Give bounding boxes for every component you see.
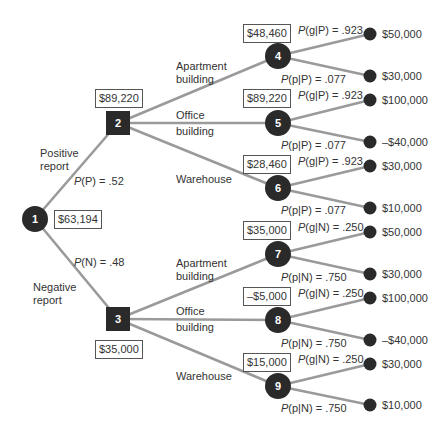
node-label-2: 2 [115, 117, 121, 129]
prob-good-node-7: P(g|N) = .250 [298, 221, 364, 234]
prob-value: .923 [342, 24, 363, 36]
node-label-8: 8 [275, 314, 281, 326]
prob-positive-value: .52 [109, 175, 124, 187]
node-label-1: 1 [32, 213, 38, 225]
ev-box-node-1: $63,194 [54, 210, 102, 229]
prob-poor-node-8: P(p|N) = .750 [281, 337, 347, 350]
prob-value: .750 [325, 271, 346, 283]
prob-value: .750 [325, 337, 346, 349]
payoff-value: $30,000 [382, 268, 422, 281]
ev-box-node-8: –$5,000 [243, 287, 291, 306]
ev-box-node-3: $35,000 [95, 340, 143, 359]
alt-label-apartment-lower: Apartment building [176, 257, 227, 283]
payoff-value: $10,000 [382, 202, 422, 215]
prob-poor-node-6: P(p|P) = .077 [281, 204, 346, 217]
payoff-value: $10,000 [382, 399, 422, 412]
node-label-5: 5 [275, 117, 281, 129]
prob-poor-node-7: P(p|N) = .750 [281, 271, 347, 284]
ev-box-node-2: $89,220 [95, 89, 143, 108]
prob-good-node-9: P(g|N) = .250 [298, 353, 364, 366]
building-text: building [176, 73, 227, 86]
payoff-value: $50,000 [382, 28, 422, 41]
branch-label-positive: Positive report [40, 147, 79, 173]
prob-negative-value: .48 [109, 256, 124, 268]
terminal-nodes [364, 28, 377, 412]
alt-label-warehouse-lower: Warehouse [176, 370, 232, 383]
prob-poor-node-9: P(p|N) = .750 [281, 402, 347, 415]
payoff-value: $30,000 [382, 160, 422, 173]
office-text: Office [176, 109, 214, 122]
node-label-6: 6 [275, 182, 281, 194]
node-label-3: 3 [115, 313, 121, 325]
apartment-text: Apartment [176, 257, 227, 270]
prob-value: .250 [342, 221, 363, 233]
prob-value: .077 [325, 73, 346, 85]
prob-poor-node-4: P(p|P) = .077 [281, 73, 346, 86]
report-text: report [40, 160, 79, 173]
prob-value: .923 [342, 155, 363, 167]
node-label-4: 4 [275, 50, 282, 62]
payoff-value: –$40,000 [382, 334, 428, 347]
payoff-value: –$40,000 [382, 136, 428, 149]
prob-good-node-6: P(g|P) = .923 [298, 155, 363, 168]
building-text: building [176, 125, 214, 138]
prob-poor-node-5: P(p|P) = .077 [281, 139, 346, 152]
report-text: report [33, 294, 76, 307]
prob-value: .923 [342, 89, 363, 101]
ev-box-node-6: $28,460 [243, 155, 291, 174]
positive-text: Positive [40, 147, 79, 160]
alt-label-warehouse-upper: Warehouse [176, 173, 232, 186]
apartment-text: Apartment [176, 60, 227, 73]
prob-value: .077 [325, 204, 346, 216]
prob-good-node-8: P(g|N) = .250 [298, 287, 364, 300]
ev-box-node-9: $15,000 [243, 353, 291, 372]
prob-value: .250 [342, 287, 363, 299]
prob-negative: P(N) = .48 [74, 256, 124, 269]
branch-label-negative: Negative report [33, 281, 76, 307]
payoff-value: $30,000 [382, 70, 422, 83]
building-text: building [176, 270, 227, 283]
prob-value: .077 [325, 139, 346, 151]
alt-label-office-upper: Office building [176, 109, 214, 138]
payoff-value: $100,000 [382, 292, 428, 305]
payoff-value: $100,000 [382, 94, 428, 107]
ev-box-node-4: $48,460 [243, 24, 291, 43]
prob-good-node-5: P(g|P) = .923 [298, 89, 363, 102]
node-label-7: 7 [275, 248, 281, 260]
prob-value: .250 [342, 353, 363, 365]
ev-box-node-7: $35,000 [243, 221, 291, 240]
alt-label-office-lower: Office building [176, 305, 214, 334]
negative-text: Negative [33, 281, 76, 294]
building-text: building [176, 321, 214, 334]
payoff-value: $50,000 [382, 226, 422, 239]
prob-value: .750 [325, 402, 346, 414]
ev-box-node-5: $89,220 [243, 89, 291, 108]
node-label-9: 9 [275, 380, 281, 392]
prob-positive: P(P) = .52 [74, 175, 124, 188]
office-text: Office [176, 305, 214, 318]
alt-label-apartment-upper: Apartment building [176, 60, 227, 86]
prob-good-node-4: P(g|P) = .923 [298, 24, 363, 37]
payoff-value: $30,000 [382, 358, 422, 371]
